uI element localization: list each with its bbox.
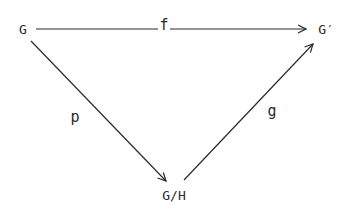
label-p: p — [70, 110, 79, 125]
node-G: G — [19, 23, 27, 36]
diagram-canvas — [0, 0, 345, 213]
node-G-prime: G′ — [318, 23, 334, 36]
label-g: g — [267, 104, 276, 119]
label-f: f — [159, 18, 168, 33]
arrow-p — [31, 41, 166, 181]
arrow-g — [184, 44, 313, 180]
node-G-mod-H: G/H — [162, 189, 185, 202]
